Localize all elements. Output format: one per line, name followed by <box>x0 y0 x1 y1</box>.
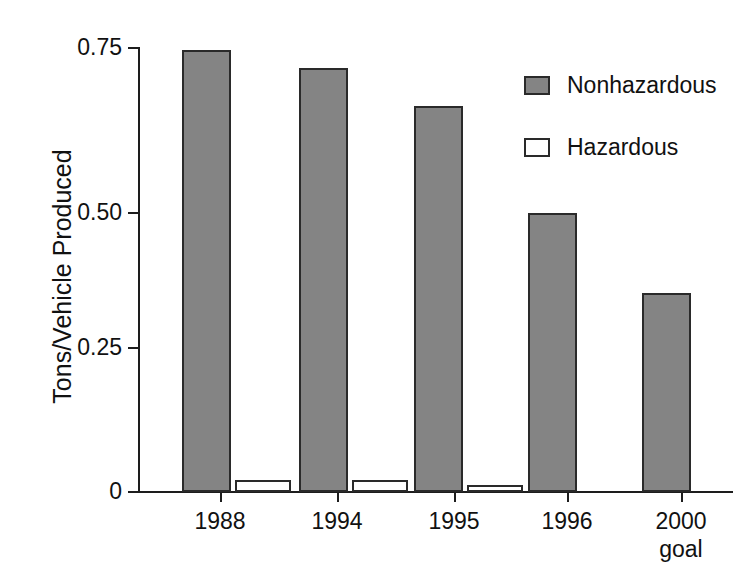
x-tick-label-1994: 1994 <box>272 507 402 535</box>
x-tick-label-1988-text: 1988 <box>194 508 245 534</box>
bar-nonhazardous-1996 <box>528 213 577 492</box>
x-tick-1996 <box>567 491 569 502</box>
y-axis-title: Tons/Vehicle Produced <box>48 97 77 457</box>
bar-nonhazardous-2000 <box>642 293 691 492</box>
x-tick-1988 <box>220 491 222 502</box>
y-axis-line <box>138 47 140 493</box>
y-tick-label-0: 0 <box>2 480 122 503</box>
y-tick-label-050: 0.50 <box>2 201 122 224</box>
y-tick-label-025-wrap: 0.25 <box>0 336 122 360</box>
x-tick-label-1996: 1996 <box>502 507 632 535</box>
x-tick-label-2000-text: 2000 <box>655 508 706 534</box>
x-tick-label-2000-sub: goal <box>616 535 746 563</box>
y-tick-label-050-wrap: 0.50 <box>0 201 122 225</box>
bar-chart: Tons/Vehicle Produced 0.75 0.50 0.25 0 1… <box>0 0 751 587</box>
y-tick-label-025: 0.25 <box>2 336 122 359</box>
x-tick-label-1988: 1988 <box>155 507 285 535</box>
bar-hazardous-1988 <box>235 480 291 492</box>
y-tick-label-075: 0.75 <box>2 36 122 59</box>
bar-nonhazardous-1988 <box>182 50 231 492</box>
legend-item-nonhazardous: Nonhazardous <box>524 72 739 98</box>
bar-nonhazardous-1995 <box>414 106 463 492</box>
x-tick-2000 <box>681 491 683 502</box>
x-tick-1994 <box>337 491 339 502</box>
bar-hazardous-1994 <box>352 480 408 492</box>
legend-item-hazardous: Hazardous <box>524 134 739 160</box>
legend-swatch-nonhazardous-icon <box>524 76 550 95</box>
legend-label-hazardous: Hazardous <box>567 136 678 159</box>
x-tick-label-1995: 1995 <box>389 507 519 535</box>
y-tick-label-0-wrap: 0 <box>0 480 122 504</box>
y-tick-label-075-wrap: 0.75 <box>0 36 122 60</box>
x-tick-label-1995-text: 1995 <box>428 508 479 534</box>
x-tick-label-1996-text: 1996 <box>541 508 592 534</box>
chart-legend: Nonhazardous Hazardous <box>524 72 739 196</box>
bar-hazardous-1995 <box>467 485 523 492</box>
x-tick-label-2000: 2000 goal <box>616 507 746 563</box>
x-tick-1995 <box>454 491 456 502</box>
x-tick-label-1994-text: 1994 <box>311 508 362 534</box>
legend-label-nonhazardous: Nonhazardous <box>567 74 717 97</box>
legend-swatch-hazardous-icon <box>524 138 550 157</box>
bar-nonhazardous-1994 <box>299 68 348 492</box>
